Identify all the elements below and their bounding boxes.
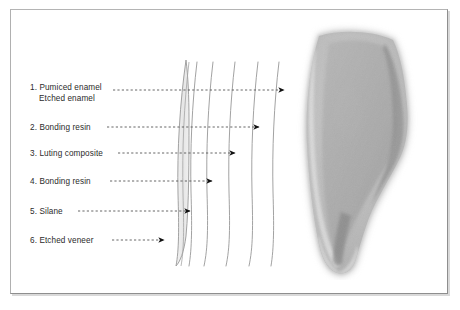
label-6-index: 6. (30, 236, 37, 245)
layer-curve-group (189, 62, 279, 266)
label-6-text: Etched veneer (39, 236, 93, 245)
label-5-index: 5. (30, 207, 37, 216)
figure-container: 1. Pumiced enamel Etched enamel 2. Bondi… (0, 0, 460, 310)
layer-curve-bonding-resin-inner (204, 62, 213, 266)
label-2-index: 2. (30, 123, 37, 132)
label-4-index: 4. (30, 177, 37, 186)
layer-curve-silane (189, 62, 197, 266)
label-5-text: Silane (39, 207, 62, 216)
label-1-index: 1. (30, 83, 37, 92)
label-3-text: Luting composite (39, 149, 103, 158)
layer-curve-luting-composite (226, 62, 235, 266)
label-1-pumiced-enamel: 1. Pumiced enamel Etched enamel (30, 82, 102, 104)
layer-curve-bonding-resin-outer (249, 62, 258, 266)
label-3-index: 3. (30, 149, 37, 158)
label-1-text: Pumiced enamel (39, 83, 101, 92)
label-3-luting-composite: 3. Luting composite (30, 148, 103, 159)
layer-curve-etched-enamel (271, 62, 279, 266)
label-5-silane: 5. Silane (30, 206, 63, 217)
label-2-bonding-resin: 2. Bonding resin (30, 122, 91, 133)
label-1-subtext: Etched enamel (30, 93, 102, 104)
label-2-text: Bonding resin (39, 123, 90, 132)
label-4-text: Bonding resin (39, 177, 90, 186)
label-6-etched-veneer: 6. Etched veneer (30, 235, 94, 246)
label-4-bonding-resin: 4. Bonding resin (30, 176, 91, 187)
